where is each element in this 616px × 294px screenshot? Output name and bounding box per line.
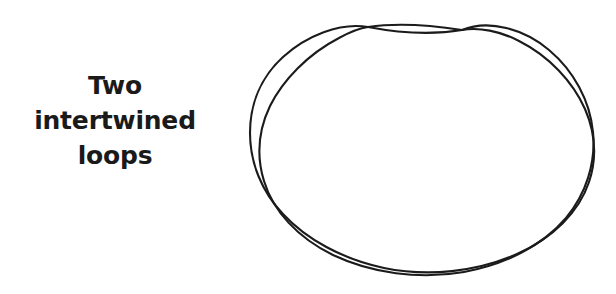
two-intertwined-loops-illustration: [0, 0, 616, 294]
loops-svg-canvas: [0, 0, 616, 294]
figure-root: Two intertwined loops: [0, 0, 616, 294]
